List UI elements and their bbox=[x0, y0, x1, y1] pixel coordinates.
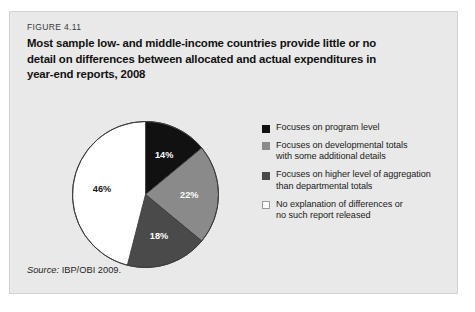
pie-chart-svg: 14%22%18%46% bbox=[63, 112, 228, 277]
legend-item-label-line: with some additional details bbox=[276, 151, 407, 162]
figure-title-line-1: Most sample low- and middle-income count… bbox=[27, 36, 427, 52]
pie-slice-label: 22% bbox=[180, 190, 198, 200]
legend-item: Focuses on program level bbox=[262, 122, 457, 133]
legend-swatch-icon bbox=[262, 172, 270, 180]
pie-chart: 14%22%18%46% bbox=[63, 112, 228, 277]
legend-item-label-line: than departmental totals bbox=[276, 181, 431, 192]
chart-legend: Focuses on program levelFocuses on devel… bbox=[262, 122, 457, 228]
legend-item-label-line: Focuses on program level bbox=[276, 122, 379, 133]
figure-title-line-3: year-end reports, 2008 bbox=[27, 67, 427, 83]
pie-slice-label: 14% bbox=[155, 150, 173, 160]
pie-slice-label: 46% bbox=[93, 184, 111, 194]
legend-item: Focuses on developmental totalswith some… bbox=[262, 140, 457, 163]
legend-swatch-icon bbox=[262, 142, 270, 150]
source-note: Source: IBP/OBI 2009. bbox=[27, 265, 121, 275]
legend-item-label: Focuses on developmental totalswith some… bbox=[276, 140, 407, 163]
legend-item: Focuses on higher level of aggregationth… bbox=[262, 169, 457, 192]
legend-item: No explanation of differences orno such … bbox=[262, 199, 457, 222]
legend-item-label-line: Focuses on developmental totals bbox=[276, 140, 407, 151]
legend-item-label: Focuses on program level bbox=[276, 122, 379, 133]
legend-item-label-line: No explanation of differences or bbox=[276, 199, 403, 210]
legend-item-label-line: Focuses on higher level of aggregation bbox=[276, 169, 431, 180]
source-text: IBP/OBI 2009. bbox=[59, 265, 121, 275]
legend-swatch-icon bbox=[262, 125, 270, 133]
figure-number: FIGURE 4.11 bbox=[27, 22, 81, 32]
figure-title: Most sample low- and middle-income count… bbox=[27, 36, 427, 83]
source-label: Source: bbox=[27, 265, 59, 275]
pie-slice-label: 18% bbox=[150, 231, 168, 241]
legend-item-label-line: no such report released bbox=[276, 210, 403, 221]
legend-item-label: No explanation of differences orno such … bbox=[276, 199, 403, 222]
legend-item-label: Focuses on higher level of aggregationth… bbox=[276, 169, 431, 192]
figure-panel: FIGURE 4.11 Most sample low- and middle-… bbox=[9, 11, 458, 294]
legend-swatch-icon bbox=[262, 201, 270, 209]
figure-title-line-2: detail on differences between allocated … bbox=[27, 52, 427, 68]
